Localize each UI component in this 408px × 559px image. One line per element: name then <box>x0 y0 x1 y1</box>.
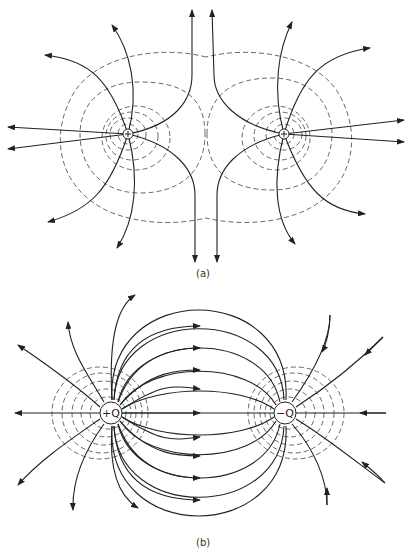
figure-a <box>8 10 404 262</box>
field-diagram: +Q −Q <box>0 0 408 559</box>
svg-text:−Q: −Q <box>276 407 294 420</box>
charge-a-left <box>123 129 133 139</box>
field-lines-a-left <box>8 10 195 262</box>
charge-b-negative: −Q <box>274 402 296 424</box>
field-lines-a-right <box>212 10 404 262</box>
caption-a: (a) <box>196 268 210 279</box>
figure-b: +Q −Q <box>15 295 386 516</box>
svg-text:+Q: +Q <box>102 407 120 420</box>
field-lines-b <box>15 295 386 516</box>
charge-a-right <box>279 129 289 139</box>
charge-b-positive: +Q <box>100 402 122 424</box>
caption-b: (b) <box>196 537 210 548</box>
